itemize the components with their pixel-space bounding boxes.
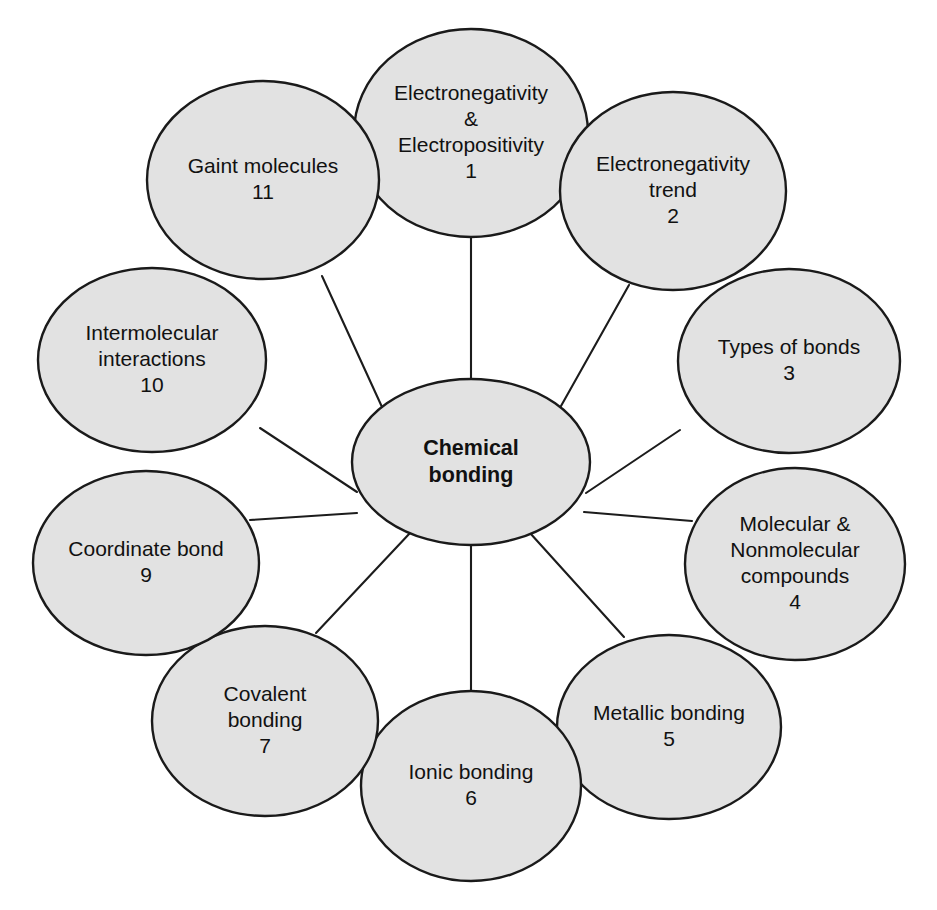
nodes-layer: Electronegativity&Electropositivity1Elec… <box>33 29 905 881</box>
concept-node-3[interactable]: Types of bonds3 <box>678 269 900 453</box>
concept-node-ellipse[interactable] <box>38 268 266 452</box>
diagram-canvas: Electronegativity&Electropositivity1Elec… <box>0 0 937 910</box>
concept-node-ellipse[interactable] <box>557 635 781 819</box>
concept-node-4[interactable]: Molecular &Nonmolecularcompounds4 <box>685 468 905 660</box>
concept-node-ellipse[interactable] <box>560 92 786 290</box>
concept-node-ellipse[interactable] <box>152 626 378 816</box>
edge-center-to-node-3 <box>586 430 680 493</box>
concept-node-11[interactable]: Gaint molecules11 <box>147 81 379 279</box>
concept-node-10[interactable]: Intermolecularinteractions10 <box>38 268 266 452</box>
concept-node-ellipse[interactable] <box>678 269 900 453</box>
edge-center-to-node-9 <box>250 513 357 520</box>
concept-node-ellipse[interactable] <box>361 691 581 881</box>
concept-node-6[interactable]: Ionic bonding6 <box>361 691 581 881</box>
concept-node-5[interactable]: Metallic bonding5 <box>557 635 781 819</box>
edge-center-to-node-10 <box>260 428 357 492</box>
concept-node-ellipse[interactable] <box>33 471 259 655</box>
concept-node-7[interactable]: Covalentbonding7 <box>152 626 378 816</box>
concept-map-svg: Electronegativity&Electropositivity1Elec… <box>0 0 937 910</box>
concept-node-9[interactable]: Coordinate bond9 <box>33 471 259 655</box>
edge-center-to-node-11 <box>322 276 382 407</box>
edge-center-to-node-5 <box>530 533 624 637</box>
center-node[interactable]: Chemicalbonding <box>352 379 590 545</box>
concept-node-2[interactable]: Electronegativitytrend2 <box>560 92 786 290</box>
center-node-ellipse[interactable] <box>352 379 590 545</box>
concept-node-ellipse[interactable] <box>147 81 379 279</box>
edge-center-to-node-2 <box>561 285 629 406</box>
concept-node-1[interactable]: Electronegativity&Electropositivity1 <box>354 29 588 237</box>
concept-node-ellipse[interactable] <box>685 468 905 660</box>
concept-node-ellipse[interactable] <box>354 29 588 237</box>
edge-center-to-node-7 <box>316 533 410 633</box>
edge-center-to-node-4 <box>584 512 692 521</box>
